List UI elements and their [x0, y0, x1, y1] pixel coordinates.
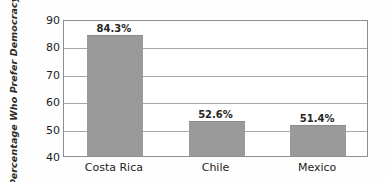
y-tick-label: 90 [20, 15, 60, 26]
y-tick-label: 60 [20, 97, 60, 108]
y-tick-label: 40 [20, 152, 60, 163]
category-label: Mexico [257, 162, 377, 173]
bar-value-label: 51.4% [277, 114, 357, 124]
bar-chart-figure: Percentage Who Prefer Democracy 40506070… [0, 0, 387, 182]
bar [189, 121, 245, 156]
bar-value-label: 52.6% [176, 110, 256, 120]
y-tick-label: 80 [20, 42, 60, 53]
bar [87, 35, 143, 156]
y-axis-title-text: Percentage Who Prefer Democracy [8, 0, 19, 182]
plot-area [63, 20, 368, 157]
bar [290, 125, 346, 156]
y-tick-label: 50 [20, 124, 60, 135]
y-tick-label: 70 [20, 69, 60, 80]
bar-value-label: 84.3% [74, 24, 154, 34]
